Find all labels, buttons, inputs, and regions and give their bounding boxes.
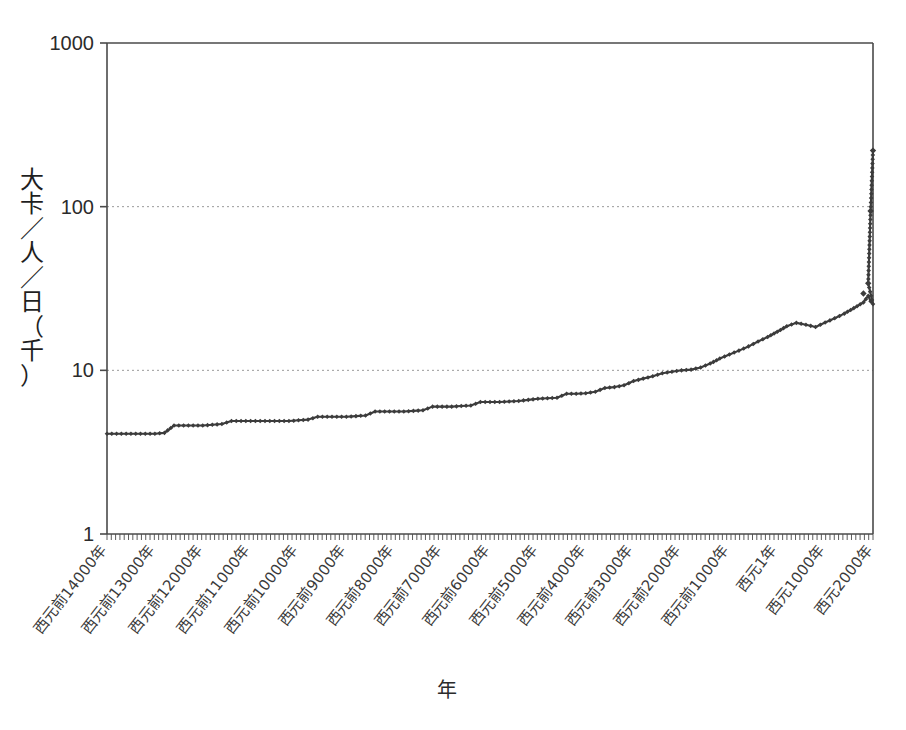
y-axis-tick-label: 10 [72, 359, 94, 381]
y-axis-title-char: （ [14, 315, 50, 339]
y-axis-title-char: 日 [14, 290, 50, 314]
y-axis-tick-label: 1 [83, 523, 94, 545]
y-axis-tick-label: 100 [61, 196, 94, 218]
plot-background [107, 43, 873, 534]
y-axis-title-char: ／ [14, 217, 50, 241]
y-axis-title: 大卡／人／日（千） [14, 168, 50, 388]
y-axis-title-char: 卡 [14, 192, 50, 216]
chart-plot-svg: 1000100101 西元前14000年西元前13000年西元前12000年西元… [0, 0, 906, 730]
y-axis-title-char: 人 [14, 241, 50, 265]
y-axis-tick-label: 1000 [50, 32, 95, 54]
x-axis-title: 年 [437, 678, 457, 702]
x-axis-minor-ticks [107, 534, 873, 540]
y-axis-ticks: 1000100101 [50, 32, 108, 545]
y-axis-title-char: 千 [14, 339, 50, 363]
y-axis-title-char: 大 [14, 168, 50, 192]
chart-container: 大卡／人／日（千） 1000100101 西元前14000年西元前13000年西… [0, 0, 906, 730]
y-axis-title-char: ／ [14, 266, 50, 290]
y-axis-title-char: ） [14, 364, 50, 388]
x-axis-tick-label: 西元1年 [733, 541, 781, 595]
x-axis-tick-labels: 西元前14000年西元前13000年西元前12000年西元前11000年西元前1… [30, 541, 877, 637]
